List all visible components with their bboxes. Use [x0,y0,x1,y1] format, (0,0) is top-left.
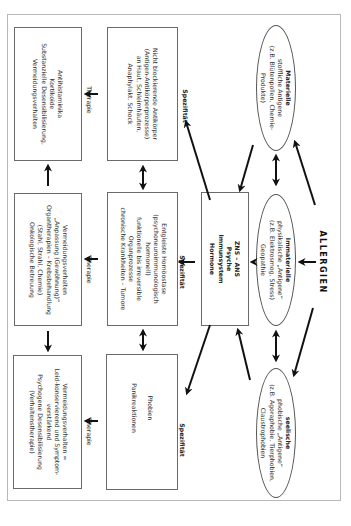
therapy-line: Onkologische Betreuung [27,204,35,314]
reaction-line: Phobien [146,383,154,433]
therapy-line: Organtherapien – Krebsbehandlung [44,204,52,314]
therapy-box-immaterielle: Vermeidungsverhalten „Anpassung (Gewöhnu… [14,193,82,326]
allergen-line: Produkte) [260,46,268,131]
label-therapy: Therapie [86,418,93,445]
allergen-immaterielle-ellipse: Immaterielle physikalische „Antigene“ (z… [256,194,296,326]
reaction-box-immaterielle: Entgleiste Homöostase (psychoneuroimmuno… [107,192,178,326]
allergen-line: (z.B. Blütenpollen, Chemie- [268,46,276,131]
label-specificity: Spezifität [179,255,186,288]
reaction-line: Anaphylakt. Schock [126,48,134,140]
allergen-line: stoffliche Antigene [276,46,284,131]
center-line: Hormone [209,234,217,283]
therapy-line: „Anpassung (Gewöhnung)“ [52,204,60,314]
therapy-line: Substanzielle Desensibilisierung, [40,43,48,145]
allergen-heading: Materielle [284,46,292,131]
therapy-line: (Stahl, Strahl, Chemie) [36,204,44,314]
allergen-line: (z.B. Agoraphobie, Tierphobien, [268,384,276,482]
therapy-line: Leid-konservierend und Symptom- [52,369,60,476]
therapy-line: Psychogene Desensibilisierung [35,369,43,476]
therapy-line: (Verhaltenstherapie) [27,369,35,476]
allergen-seelische-ellipse: seelische phobische „Antigene“ (z.B. Ago… [256,368,296,498]
center-line: Immunsystem [217,234,225,283]
therapy-box-seelische: Vermeidungsverhalten = Leid-konservieren… [13,355,82,489]
reaction-line: Organprozesse [126,208,134,311]
center-line: Psyche [225,234,233,283]
center-box-zns: ZNS – ANS Psyche Immunsystem Hormone [201,192,249,326]
label-therapy: Therapie [86,86,93,113]
reaction-line: funktionelle bis irreversible [134,208,142,311]
therapy-line: Antihistaminika [56,43,64,145]
allergen-heading: seelische [284,384,292,482]
therapy-line: Vermeidungsverhalten [60,204,68,314]
therapy-line: Vermeidungsverhalten = [60,369,68,476]
reaction-line: (psychoneuroimmunologisch [151,208,159,311]
reaction-box-seelische: Phobien Panikreaktionen [106,354,178,490]
center-line: ZNS – ANS [233,234,241,283]
allergen-heading: Immaterielle [284,220,292,300]
label-specificity: Spezifität [182,89,189,122]
therapy-box-materielle: Antihistaminika Kortikoide Substanzielle… [14,27,82,161]
allergen-materielle-ellipse: Materielle stoffliche Antigene (z.B. Blü… [256,25,296,151]
reaction-box-materielle: Nicht blockierende Antikörper (Antigen-A… [107,27,178,161]
reaction-line: hormonell) [143,208,151,311]
therapy-line: verstärkend [43,369,51,476]
reaction-line: Entgleiste Homöostase [159,208,167,311]
allergen-line: Geopathie [260,220,268,300]
allergen-line: phobische „Antigene“ [276,384,284,482]
label-specificity: Spezifität [179,423,186,456]
therapy-line: Vermeidungsverhalten [32,43,40,145]
reaction-line: an Haut, Schleimhäuten, [134,48,142,140]
allergen-line: Claustrophobien [260,384,268,482]
reaction-line: chronische Krankheiten – Tumore [118,208,126,311]
reaction-line: (Antigen-Antikörperprozesse) [143,48,151,140]
therapy-line: Kortikoide [48,43,56,145]
label-therapy: Therapie [86,256,93,283]
reaction-spacer [138,383,146,433]
allergen-line: physikalische „Antigene“ [276,220,284,300]
reaction-line: Panikreaktionen [130,383,138,433]
reaction-line: Nicht blockierende Antikörper [151,48,159,140]
allergen-line: (z.B. Elektrosmog, Stress) [268,220,276,300]
diagram-title: ALLERGIEN [318,230,327,293]
